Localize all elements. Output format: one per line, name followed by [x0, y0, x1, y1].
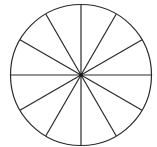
sector-circle-diagram: [0, 0, 157, 147]
center-point: [79, 73, 83, 77]
